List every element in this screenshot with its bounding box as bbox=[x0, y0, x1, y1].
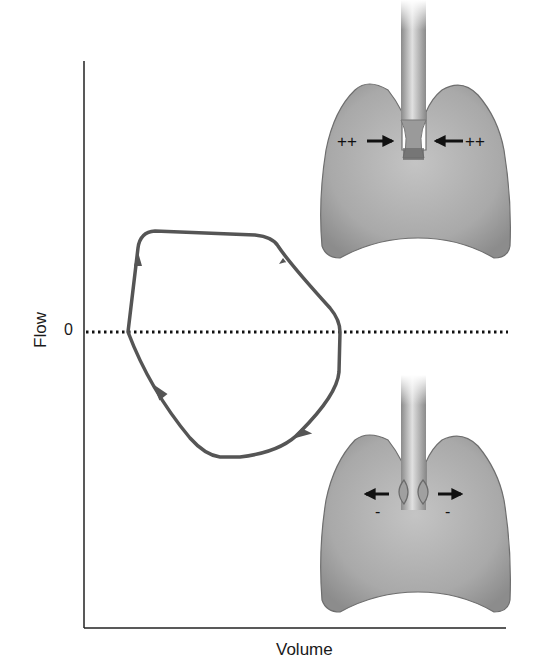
y-axis-label: Flow bbox=[31, 312, 51, 348]
flow-volume-diagram: ++ ++ - - bbox=[0, 0, 539, 665]
pressure-marker-right: - bbox=[445, 503, 450, 520]
pressure-marker-left: - bbox=[375, 503, 380, 520]
loop-arrow-up-left-lower bbox=[156, 388, 165, 398]
top-lung-illustration: ++ ++ bbox=[321, 0, 511, 258]
y-tick-zero: 0 bbox=[64, 321, 73, 339]
pressure-marker-left: ++ bbox=[337, 132, 357, 151]
pressure-marker-right: ++ bbox=[465, 132, 485, 151]
bottom-lung-illustration: - - bbox=[321, 375, 511, 612]
x-axis-label: Volume bbox=[276, 640, 333, 660]
flow-volume-loop bbox=[128, 231, 340, 457]
